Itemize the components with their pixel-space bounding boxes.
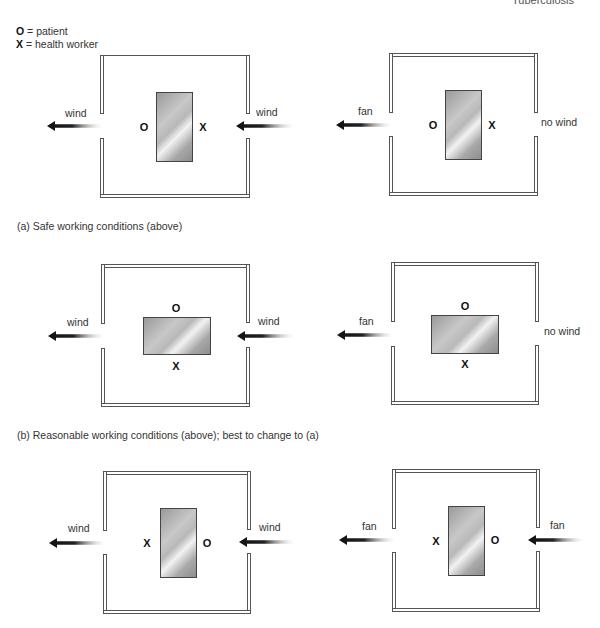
- bed: [445, 90, 482, 160]
- wall-left-lower: [389, 136, 393, 196]
- caption-b: (b) Reasonable working conditions (above…: [17, 429, 319, 441]
- fan-out-arrow-icon: [336, 120, 392, 130]
- fan-out-arrow-icon: [339, 535, 395, 545]
- wall-bottom: [389, 192, 538, 196]
- worker-mark: X: [461, 358, 468, 370]
- wall-right-upper: [246, 264, 250, 323]
- airflow-out-arrow-icon: [48, 331, 104, 341]
- wall-left-upper: [389, 53, 393, 113]
- worker-mark: X: [432, 535, 439, 547]
- wall-right-lower: [535, 345, 539, 405]
- wall-right-upper: [535, 262, 539, 322]
- bed: [156, 92, 193, 162]
- wall-right-lower: [246, 138, 250, 198]
- wall-left-upper: [101, 264, 105, 324]
- patient-text: = patient: [24, 25, 68, 37]
- fan-out-arrow-icon: [337, 330, 394, 340]
- wall-right-upper: [536, 469, 540, 528]
- wall-left-upper: [103, 471, 107, 531]
- right-airflow-label: no wind: [541, 116, 577, 128]
- wall-top: [103, 471, 251, 475]
- left-airflow-label: wind: [65, 107, 87, 119]
- wall-top: [101, 264, 250, 268]
- worker-mark: X: [143, 537, 150, 549]
- bed: [431, 315, 499, 354]
- patient-symbol: O: [16, 25, 24, 37]
- wall-right-upper: [246, 55, 250, 114]
- airflow-in-arrow-icon: [239, 537, 295, 547]
- airflow-in-arrow-icon: [236, 121, 294, 131]
- worker-mark: X: [172, 360, 179, 372]
- wall-top: [391, 262, 539, 266]
- wall-right-upper: [247, 471, 251, 530]
- right-airflow-label: wind: [256, 106, 278, 118]
- wall-left-upper: [100, 55, 104, 114]
- wall-left-lower: [101, 348, 105, 407]
- legend-patient: O = patient: [16, 25, 98, 38]
- page-header-title: Tuberculosis: [512, 0, 574, 6]
- airflow-out-arrow-icon: [47, 121, 103, 131]
- patient-mark: O: [172, 302, 181, 314]
- right-airflow-label: wind: [259, 521, 281, 533]
- bed: [160, 508, 197, 578]
- right-airflow-label: no wind: [544, 325, 580, 337]
- wall-right-lower: [247, 553, 251, 614]
- wall-bottom: [391, 401, 539, 405]
- wall-bottom: [101, 403, 250, 407]
- bed: [448, 506, 485, 576]
- wall-left-lower: [100, 138, 104, 198]
- wall-left-lower: [392, 552, 396, 612]
- worker-symbol: X: [16, 38, 23, 50]
- wall-right-lower: [536, 551, 540, 612]
- patient-mark: O: [140, 121, 149, 133]
- wall-right-lower: [246, 347, 250, 407]
- airflow-in-arrow-icon: [237, 331, 294, 341]
- wall-left-upper: [392, 469, 396, 529]
- worker-mark: X: [199, 121, 206, 133]
- wall-left-upper: [391, 262, 395, 322]
- patient-mark: O: [429, 119, 438, 131]
- wall-left-lower: [103, 554, 107, 614]
- left-airflow-label: wind: [68, 522, 90, 534]
- wall-right-upper: [534, 53, 538, 113]
- worker-mark: X: [488, 119, 495, 131]
- patient-mark: O: [203, 537, 212, 549]
- right-airflow-label: wind: [258, 315, 280, 327]
- left-airflow-label: fan: [359, 315, 374, 327]
- left-airflow-label: wind: [67, 316, 89, 328]
- wall-top: [100, 55, 250, 59]
- wall-bottom: [103, 610, 251, 614]
- legend-worker: X = health worker: [16, 38, 98, 51]
- bed: [143, 317, 211, 355]
- patient-mark: O: [461, 300, 470, 312]
- left-airflow-label: fan: [362, 520, 377, 532]
- wall-bottom: [100, 194, 250, 198]
- fan-in-arrow-icon: [528, 535, 584, 545]
- worker-text: = health worker: [23, 38, 98, 50]
- wall-top: [392, 469, 540, 473]
- airflow-out-arrow-icon: [49, 538, 106, 548]
- wall-right-lower: [534, 136, 538, 196]
- patient-mark: O: [491, 534, 500, 546]
- wall-bottom: [392, 608, 540, 612]
- legend: O = patient X = health worker: [16, 25, 98, 51]
- wall-left-lower: [391, 346, 395, 405]
- caption-a: (a) Safe working conditions (above): [17, 220, 182, 232]
- right-airflow-label: fan: [550, 519, 565, 531]
- wall-top: [389, 53, 538, 57]
- left-airflow-label: fan: [358, 105, 373, 117]
